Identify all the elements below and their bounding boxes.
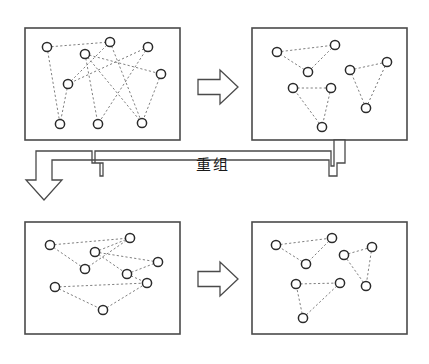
graph-node (42, 42, 51, 51)
block-arrow-group (198, 70, 238, 296)
graph-node (361, 103, 370, 112)
graph-node (298, 313, 307, 322)
diagram-stage: 重组 (0, 0, 429, 364)
recombine-feedback-arrow-group (26, 140, 345, 200)
graph-node (361, 281, 370, 290)
graph-node (63, 79, 72, 88)
graph-node (142, 278, 151, 287)
process-label-recombine: 重组 (196, 153, 229, 174)
diagram-canvas (0, 0, 429, 364)
graph-node (367, 242, 376, 251)
panel-bottom-left-border (25, 222, 180, 334)
graph-node (272, 47, 281, 56)
graph-node (93, 119, 102, 128)
graph-node (335, 278, 344, 287)
transform-arrow-bottom-icon (198, 262, 238, 296)
graph-node (330, 40, 339, 49)
graph-node (303, 67, 312, 76)
graph-node (80, 264, 89, 273)
graph-node (50, 282, 59, 291)
graph-node (125, 233, 134, 242)
graph-node (80, 49, 89, 58)
graph-node (156, 69, 165, 78)
graph-node (271, 240, 280, 249)
graph-node (288, 83, 297, 92)
graph-node (122, 269, 131, 278)
graph-node (291, 279, 300, 288)
transform-arrow-top-icon (198, 70, 238, 104)
graph-node (153, 257, 162, 266)
graph-node (317, 122, 326, 131)
graph-node (55, 119, 64, 128)
graph-node (327, 233, 336, 242)
graph-node (382, 57, 391, 66)
graph-node (301, 259, 310, 268)
graph-node (143, 42, 152, 51)
graph-node (137, 118, 146, 127)
recombine-feedback-arrow-icon (26, 140, 345, 200)
graph-node (105, 37, 114, 46)
graph-node (339, 250, 348, 259)
graph-node (345, 65, 354, 74)
graph-node (326, 83, 335, 92)
graph-node (45, 240, 54, 249)
graph-node (98, 305, 107, 314)
graph-node (90, 247, 99, 256)
